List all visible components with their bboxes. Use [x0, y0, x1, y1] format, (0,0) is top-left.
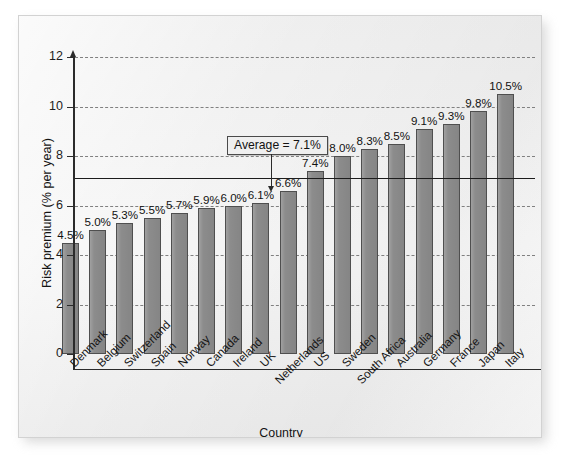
bar — [416, 129, 433, 354]
y-tick-mark-2 — [67, 305, 74, 306]
y-axis-arrow-icon — [70, 50, 76, 57]
bar — [171, 213, 188, 354]
bar-value-label: 8.5% — [379, 129, 415, 142]
screenshot-root: 4.5%5.0%5.3%5.5%5.7%5.9%6.0%6.1%6.6%7.4%… — [0, 0, 564, 455]
bar — [252, 203, 269, 354]
bar — [388, 144, 405, 354]
average-callout-label: Average = 7.1% — [227, 136, 328, 155]
gridline-12 — [75, 57, 535, 58]
bar — [280, 191, 297, 354]
bar — [443, 124, 460, 354]
average-callout-leader-line — [271, 154, 272, 189]
y-tick-mark-12 — [67, 57, 74, 58]
plot-area: 4.5%5.0%5.3%5.5%5.7%5.9%6.0%6.1%6.6%7.4%… — [19, 16, 541, 437]
bar — [470, 111, 487, 354]
y-axis-title: Risk premium (% per year) — [40, 93, 54, 333]
figure-panel: 4.5%5.0%5.3%5.5%5.7%5.9%6.0%6.1%6.6%7.4%… — [18, 15, 542, 438]
bar — [361, 149, 378, 354]
bar-value-label: 9.8% — [461, 96, 497, 109]
y-tick-label-text: 8 — [56, 148, 63, 162]
average-callout-arrow-icon — [268, 186, 274, 192]
bar-value-label: 9.3% — [433, 109, 469, 122]
y-axis-line — [73, 57, 75, 370]
bar — [497, 94, 514, 354]
y-tick-mark-4 — [67, 255, 74, 256]
bar-value-label: 10.5% — [488, 79, 524, 92]
bar-value-label: 7.4% — [297, 156, 333, 169]
average-reference-line — [74, 178, 535, 179]
y-tick-label-text: 0 — [56, 346, 63, 360]
y-tick-label-text: 4 — [56, 247, 63, 261]
bar — [62, 243, 79, 354]
x-axis-title: Country — [19, 426, 542, 438]
y-tick-label-text: 12 — [49, 49, 63, 63]
x-axis-arrow-icon — [541, 365, 542, 371]
y-tick-mark-10 — [67, 107, 74, 108]
y-tick-label-text: 6 — [56, 198, 63, 212]
x-axis-line — [73, 369, 542, 371]
bar — [334, 156, 351, 354]
bar — [307, 171, 324, 354]
y-tick-mark-6 — [67, 206, 74, 207]
bar-value-label: 4.5% — [53, 228, 89, 241]
y-tick-label-text: 2 — [56, 297, 63, 311]
y-tick-mark-8 — [67, 156, 74, 157]
bar — [198, 208, 215, 354]
